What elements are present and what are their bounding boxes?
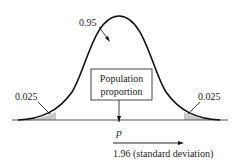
box-label-line-1: Population <box>100 73 143 84</box>
left-tail-label: 0.025 <box>15 91 38 102</box>
distance-label: 1.96 (standard deviation) <box>113 148 213 160</box>
arrowhead-icon <box>105 36 110 42</box>
mean-symbol: p <box>115 126 122 138</box>
left-tail-pointer <box>38 102 50 114</box>
central-area-label: 0.95 <box>79 17 97 28</box>
normal-distribution-diagram: 0.95 0.025 0.025 Population proportion p… <box>0 0 236 167</box>
right-tail-label: 0.025 <box>198 91 221 102</box>
arrowhead-icon <box>178 141 184 145</box>
box-label-line-2: proportion <box>100 86 142 97</box>
arrowhead-icon <box>117 116 121 122</box>
right-tail-pointer <box>188 102 200 114</box>
